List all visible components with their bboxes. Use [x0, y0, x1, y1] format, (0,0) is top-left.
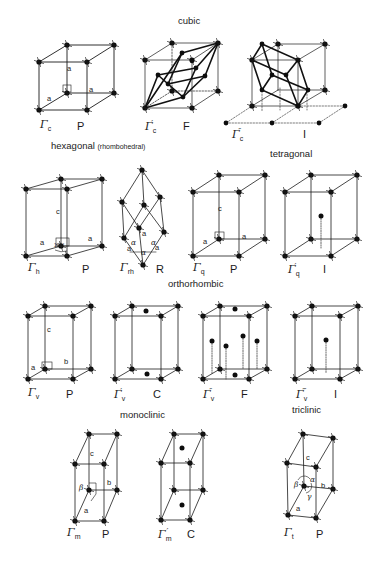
lattice-points-cubic-P: [35, 41, 119, 115]
edge-label: a: [88, 234, 92, 243]
angle-label: α: [131, 238, 136, 247]
edge-label: b: [107, 478, 111, 487]
section-title-hexagonal-sub: (rhombohedral): [98, 143, 146, 150]
lattice-type-orthorhombic-I: I: [334, 388, 337, 400]
section-title-cubic: cubic: [178, 15, 200, 26]
edge-label: c: [47, 325, 51, 334]
angle-label: α: [141, 248, 146, 257]
lattice-symbol-triclinic-P: Γt: [284, 526, 294, 540]
lattice-points-orthorhombic-F: [199, 302, 272, 384]
lattice-type-monoclinic-C: C: [187, 528, 195, 540]
section-title-hexagonal: hexagonal (rhombohedral): [51, 140, 145, 151]
lattice-symbol-rhombohedral-R: Γrh: [120, 261, 134, 275]
lattice-type-hexagonal-P: P: [82, 263, 89, 275]
bravais-lattices-figure: cubic hexagonal (rhombohedral) tetragona…: [0, 0, 381, 567]
angle-label: β: [79, 483, 83, 492]
lattice-orthorhombic-C: [115, 306, 178, 379]
lattice-points-tetragonal-P: [189, 171, 270, 261]
edge-label: a: [40, 238, 44, 247]
lattice-orthorhombic-P: [28, 306, 91, 379]
symbol-subscript: v: [122, 395, 126, 402]
angle-label: β: [294, 480, 298, 489]
symbol-primes: ′: [120, 386, 122, 395]
lattice-points-orthorhombic-C: [111, 302, 183, 384]
angle-label: α: [151, 238, 156, 247]
edge-label: c: [306, 453, 310, 462]
symbol-primes: ‴: [302, 386, 306, 395]
lattice-type-orthorhombic-F: F: [241, 388, 248, 400]
lattice-type-rhombohedral-R: R: [156, 263, 164, 275]
edge-label: 120°: [54, 242, 64, 248]
lattice-symbol-cubic-I: Γc″: [232, 126, 241, 142]
lattice-points-monoclinic-P: [71, 430, 122, 526]
symbol-subscript: v: [36, 393, 40, 400]
lattice-type-cubic-I: I: [303, 128, 306, 140]
lattice-symbol-tetragonal-P: Γq: [193, 261, 205, 275]
lattice-type-tetragonal-P: P: [230, 263, 237, 275]
symbol-primes: ″: [238, 126, 241, 135]
symbol-subscript: m: [166, 535, 172, 542]
edge-label: a: [142, 229, 146, 238]
lattice-symbol-monoclinic-C: Γm′: [158, 526, 168, 542]
lattice-type-cubic-F: F: [183, 120, 190, 132]
symbol-subscript: c: [240, 135, 244, 142]
edge-label: a: [47, 94, 51, 103]
lattice-points-monoclinic-C: [157, 430, 208, 525]
lattice-symbol-cubic-F: Γc′: [145, 118, 153, 134]
lattice-type-monoclinic-P: P: [102, 528, 109, 540]
symbol-subscript: v: [304, 395, 308, 402]
gamma-symbol: Γ: [40, 118, 48, 131]
gamma-symbol: Γ: [28, 386, 36, 399]
symbol-subscript: c: [48, 125, 52, 132]
edge-label: a: [67, 64, 71, 73]
section-title-hexagonal-main: hexagonal: [51, 140, 95, 151]
gamma-symbol: Γ: [28, 261, 36, 274]
section-title-triclinic: triclinic: [292, 404, 321, 415]
symbol-primes: ″: [209, 386, 212, 395]
edge-label: b: [64, 357, 68, 366]
lattice-symbol-orthorhombic-P: Γv: [28, 386, 39, 400]
lattice-type-tetragonal-I: I: [323, 263, 326, 275]
angle-label: α: [310, 475, 315, 484]
symbol-subscript: h: [36, 268, 40, 275]
lattice-cubic-I: [226, 44, 345, 123]
gamma-symbol: Γ: [284, 526, 292, 539]
symbol-subscript: c: [153, 127, 157, 134]
symbol-primes: ′: [166, 526, 168, 535]
lattice-type-cubic-P: P: [77, 120, 84, 132]
edge-label: a: [203, 237, 207, 246]
section-title-orthorhombic: orthorhombic: [168, 278, 223, 289]
section-title-tetragonal: tetragonal: [270, 148, 312, 159]
edge-label: a: [31, 363, 35, 372]
gamma-symbol: Γ: [67, 526, 75, 539]
symbol-subscript: t: [292, 533, 294, 540]
edge-label: a: [242, 232, 246, 241]
lattice-points-cubic-F: [141, 39, 223, 113]
symbol-subscript: rh: [128, 268, 134, 275]
edge-label: c: [56, 207, 60, 216]
symbol-primes: ′: [295, 261, 297, 270]
lattice-symbol-cubic-P: Γc: [40, 118, 51, 132]
lattice-type-orthorhombic-P: P: [66, 388, 73, 400]
lattice-symbol-monoclinic-P: Γm: [67, 526, 80, 540]
symbol-subscript: q: [201, 268, 205, 275]
symbol-primes: ′: [151, 118, 153, 127]
lattice-orthorhombic-I: [295, 306, 358, 379]
lattice-symbol-orthorhombic-C: Γv′: [114, 386, 122, 402]
lattice-type-orthorhombic-C: C: [153, 388, 161, 400]
symbol-subscript: q: [296, 270, 300, 277]
symbol-subscript: m: [75, 533, 81, 540]
lattice-points-orthorhombic-I: [291, 302, 363, 384]
angle-label: γ: [307, 492, 311, 501]
lattice-symbol-orthorhombic-I: Γv‴: [296, 386, 306, 402]
edge-label: c: [218, 204, 222, 213]
edge-label: a: [84, 506, 88, 515]
lattice-symbol-hexagonal-P: Γh: [28, 261, 40, 275]
edge-label: c: [90, 449, 94, 458]
edge-label: a: [89, 85, 93, 94]
gamma-symbol: Γ: [158, 528, 166, 541]
edge-label: b: [321, 481, 325, 490]
lattice-type-triclinic-P: P: [316, 528, 323, 540]
gamma-symbol: Γ: [120, 261, 128, 274]
gamma-symbol: Γ: [193, 261, 201, 274]
